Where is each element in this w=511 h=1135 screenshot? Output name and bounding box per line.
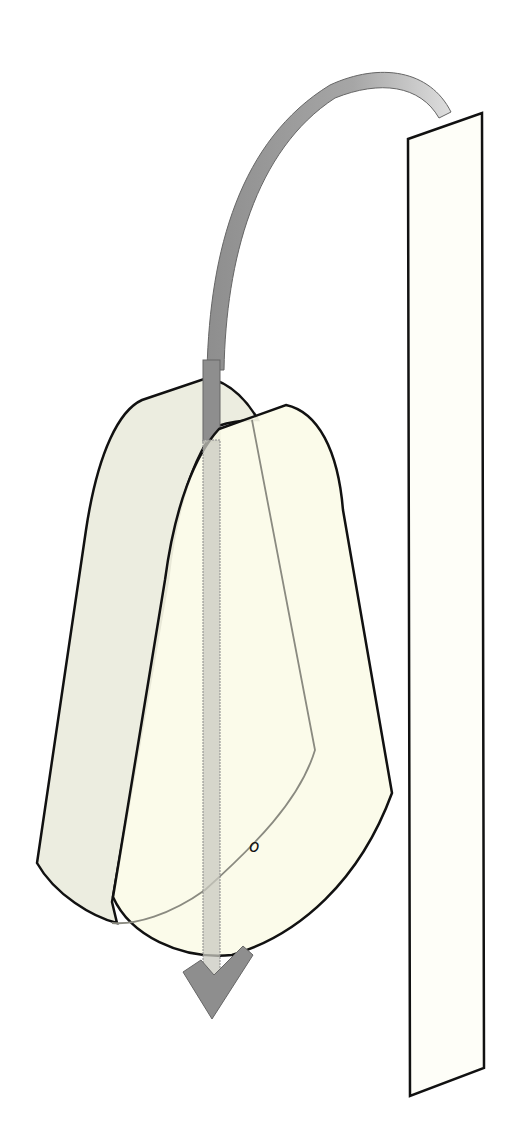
arrow-shaft-lower [203,440,220,995]
diagram-canvas: o [0,0,511,1135]
diagram-label: o [249,836,259,856]
vertical-panel [408,113,484,1096]
